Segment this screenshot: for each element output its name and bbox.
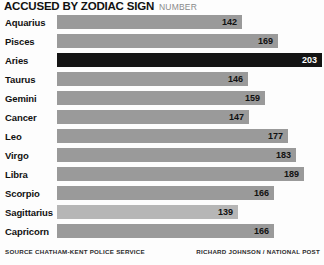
bar-track: 189 (57, 167, 324, 181)
bar-row: Gemini159 (0, 90, 324, 109)
bar: 166 (57, 186, 274, 200)
source-note: SOURCE CHATHAM-KENT POLICE SERVICE (5, 248, 145, 255)
chart-header: ACCUSED BY ZODIAC SIGNNUMBER (4, 0, 320, 10)
bar-value-label: 166 (254, 186, 274, 200)
bar-value-label: 146 (228, 72, 248, 86)
bar-value-label: 139 (218, 205, 238, 219)
bar-track: 183 (57, 148, 324, 162)
bar-category-label: Pisces (5, 35, 57, 48)
bar-row: Libra189 (0, 166, 324, 185)
bar-category-label: Libra (5, 168, 57, 181)
bar-value-label: 169 (258, 34, 278, 48)
bar-value-label: 159 (245, 91, 265, 105)
bar: 183 (57, 148, 296, 162)
bar-category-label: Taurus (5, 73, 57, 86)
bar-category-label: Sagittarius (5, 206, 57, 219)
credit-note: RICHARD JOHNSON / NATIONAL POST (196, 248, 320, 255)
bar-category-label: Gemini (5, 92, 57, 105)
bar-category-label: Aquarius (5, 16, 57, 29)
bar: 177 (57, 129, 288, 143)
bar: 147 (57, 110, 249, 124)
page-title: ACCUSED BY ZODIAC SIGN (4, 0, 154, 10)
bar: 146 (57, 72, 248, 86)
bar-category-label: Leo (5, 130, 57, 143)
bar-row: Pisces169 (0, 33, 324, 52)
bar-track: 203 (57, 53, 324, 67)
bar-value-label: 166 (254, 224, 274, 238)
bar: 166 (57, 224, 274, 238)
bar-value-label: 189 (284, 167, 304, 181)
bar-value-label: 147 (229, 110, 249, 124)
bar-track: 159 (57, 91, 324, 105)
bar-category-label: Aries (5, 54, 57, 67)
bar: 189 (57, 167, 304, 181)
bar-row: Scorpio166 (0, 185, 324, 204)
bar-track: 139 (57, 205, 324, 219)
bar-value-label: 142 (222, 15, 242, 29)
bar-category-label: Capricorn (5, 225, 57, 238)
chart-footer: SOURCE CHATHAM-KENT POLICE SERVICE RICHA… (0, 248, 324, 262)
bar-value-label: 203 (302, 53, 322, 67)
bar-track: 166 (57, 224, 324, 238)
bar-row: Cancer147 (0, 109, 324, 128)
bar-track: 147 (57, 110, 324, 124)
bar: 203 (57, 53, 322, 67)
bar-row: Leo177 (0, 128, 324, 147)
bar-row: Sagittarius139 (0, 204, 324, 223)
chart-subtitle: NUMBER (159, 2, 197, 10)
bar-track: 169 (57, 34, 324, 48)
bar-value-label: 183 (276, 148, 296, 162)
bar-row: Taurus146 (0, 71, 324, 90)
bar-row: Virgo183 (0, 147, 324, 166)
zodiac-bar-chart-figure: ACCUSED BY ZODIAC SIGNNUMBER Aquarius142… (0, 0, 324, 265)
bar-track: 177 (57, 129, 324, 143)
bar-track: 166 (57, 186, 324, 200)
chart-plot-area: Aquarius142Pisces169Aries203Taurus146Gem… (0, 14, 324, 242)
bar-track: 142 (57, 15, 324, 29)
bar-row: Aquarius142 (0, 14, 324, 33)
bar: 169 (57, 34, 278, 48)
bar-row: Aries203 (0, 52, 324, 71)
bar-category-label: Virgo (5, 149, 57, 162)
bar: 139 (57, 205, 238, 219)
bar-category-label: Scorpio (5, 187, 57, 200)
bar-row: Capricorn166 (0, 223, 324, 242)
bar-track: 146 (57, 72, 324, 86)
bar-category-label: Cancer (5, 111, 57, 124)
bar: 142 (57, 15, 242, 29)
bar: 159 (57, 91, 265, 105)
bar-value-label: 177 (268, 129, 288, 143)
